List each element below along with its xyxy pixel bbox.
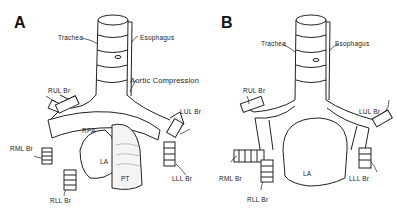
label-trachea: Trachea [261,40,286,47]
label-la: LA [303,170,311,177]
label-la: LA [100,158,108,165]
label-lll-br: LLL Br [172,175,192,182]
panel-letter: A [14,14,26,32]
label-rul-br: RUL Br [48,87,70,94]
panel-b: B Trachea Esophagus RUL Br LUL Br RML Br… [199,0,397,210]
panel-letter: B [221,14,233,32]
panel-a: A Trachea Esophagus Aortic Compression R… [0,0,198,210]
label-rll-br: RLL Br [50,197,71,204]
label-pt: PT [121,175,130,182]
label-esophagus: Esophagus [335,40,369,47]
label-rul-br: RUL Br [243,87,265,94]
label-rml-br: RML Br [10,145,33,152]
label-rml-br: RML Br [219,175,242,182]
label-esophagus: Esophagus [140,34,174,41]
label-aortic-compression: Aortic Compression [130,76,199,85]
airway-diagram-with-compression [0,0,198,210]
label-lll-br: LLL Br [349,175,369,182]
label-rll-br: RLL Br [247,196,268,203]
label-lul-br: LUL Br [359,108,380,115]
label-rpa: RPA [82,127,95,134]
label-trachea: Trachea [58,34,83,41]
